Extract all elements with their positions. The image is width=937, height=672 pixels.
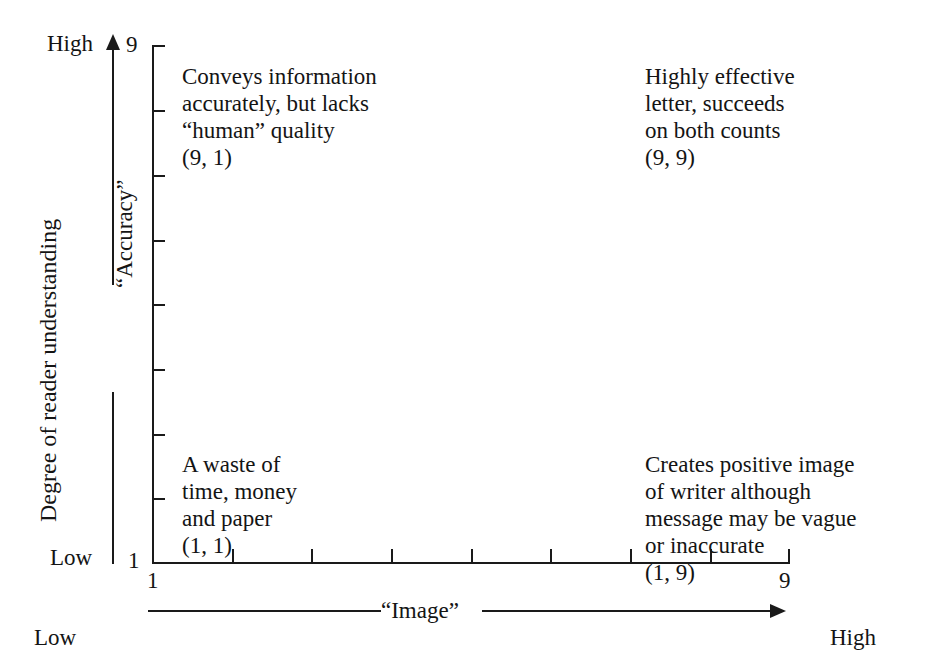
quadrant-bottom-right-text: Creates positive image of writer althoug… (645, 452, 856, 558)
quadrant-bottom-right-coord: (1, 9) (645, 559, 856, 586)
y-axis-tick-7 (154, 175, 165, 177)
x-axis-tick-7 (630, 549, 632, 562)
quadrant-bottom-left-text: A waste of time, money and paper (182, 452, 297, 531)
y-axis-label: “Accuracy” (113, 179, 136, 288)
y-axis-tick-3 (154, 434, 165, 436)
quadrant-annotation-bottom-right: Creates positive image of writer althoug… (645, 424, 856, 613)
quadrant-top-right-text: Highly effective letter, succeeds on bot… (645, 64, 795, 143)
quadrant-top-left-text: Conveys information accurately, but lack… (182, 64, 377, 143)
y-axis-tick-9 (154, 45, 165, 47)
y-axis-tick-5 (154, 304, 165, 306)
quadrant-top-right-coord: (9, 9) (645, 144, 795, 171)
quadrant-bottom-left-coord: (1, 1) (182, 532, 297, 559)
y-axis-tick-6 (154, 240, 165, 242)
y-axis-min-value: 1 (128, 549, 140, 572)
x-axis-tick-6 (550, 549, 552, 562)
x-axis-tick-4 (391, 549, 393, 562)
quadrant-annotation-bottom-left: A waste of time, money and paper (1, 1) (182, 424, 297, 586)
y-axis-outer-caption: Degree of reader understanding (36, 219, 60, 522)
x-axis-tick-3 (311, 549, 313, 562)
y-axis-tick-4 (154, 369, 165, 371)
accuracy-image-matrix-figure: 9 1 1 9 “Accuracy” High Low Degree of re… (0, 0, 937, 672)
x-axis-min-value: 1 (147, 569, 159, 592)
quadrant-annotation-top-left: Conveys information accurately, but lack… (182, 36, 377, 198)
x-axis-low-label: Low (34, 626, 76, 649)
y-axis-tick-8 (154, 110, 165, 112)
x-axis-high-label: High (830, 626, 876, 649)
y-axis-max-value: 9 (126, 33, 138, 56)
x-axis-label: “Image” (381, 599, 459, 622)
y-axis-high-label: High (47, 32, 93, 55)
quadrant-top-left-coord: (9, 1) (182, 144, 377, 171)
x-axis-arrow-left-line (148, 610, 381, 612)
quadrant-annotation-top-right: Highly effective letter, succeeds on bot… (645, 36, 795, 198)
y-axis-low-label: Low (50, 546, 92, 569)
x-axis-tick-5 (471, 549, 473, 562)
x-axis-tick-1 (152, 549, 154, 562)
y-axis-tick-2 (154, 498, 165, 500)
y-axis-arrow-lower-line (112, 392, 114, 564)
